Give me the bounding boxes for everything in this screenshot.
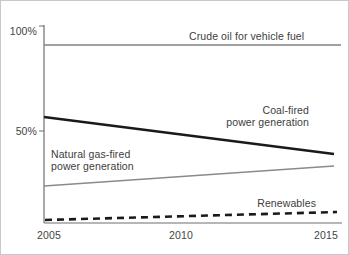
x-axis-tick-label-2015: 2015	[306, 229, 346, 241]
x-axis-tick-label-2005: 2005	[29, 229, 69, 241]
series-line-renewables	[45, 212, 337, 220]
series-label-natural-gas-line-1: Natural gas-fired	[51, 148, 161, 160]
series-label-natural-gas: Natural gas-fired power generation	[51, 148, 161, 173]
y-axis-tick-label-100: 100%	[3, 25, 37, 37]
series-label-coal: Coal-fired power generation	[204, 104, 309, 129]
series-label-crude-oil: Crude oil for vehicle fuel	[189, 30, 304, 42]
series-label-natural-gas-line-2: power generation	[51, 160, 161, 172]
series-label-coal-line-2: power generation	[204, 116, 309, 128]
x-axis-tick-label-2010: 2010	[161, 229, 201, 241]
y-axis-tick-label-50: 50%	[3, 125, 37, 137]
series-label-coal-line-1: Coal-fired	[204, 104, 309, 116]
chart-container: 100% 50% 2005 2010 2015 Crude oil for ve…	[0, 0, 349, 255]
series-label-renewables: Renewables	[236, 197, 316, 209]
